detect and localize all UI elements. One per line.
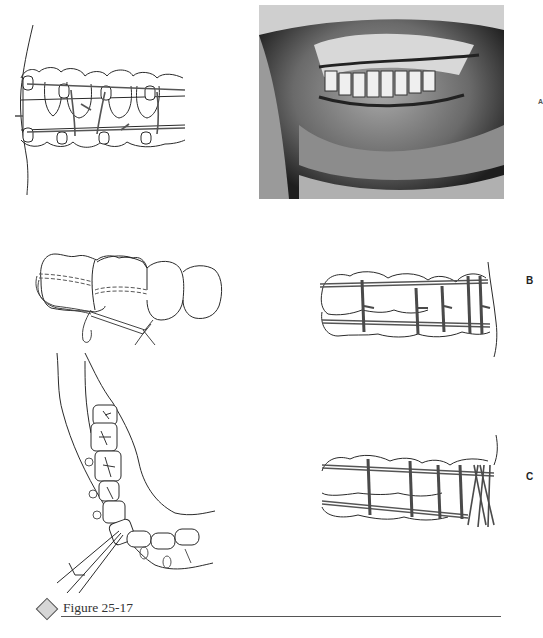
illustration-panel-c-wired-arch [318, 435, 503, 530]
panel-label-c: C [526, 471, 533, 482]
panel-label-b: B [526, 275, 533, 286]
figure-caption-header: Figure 25-17 [37, 599, 500, 621]
figure-caption-text-cropped [37, 629, 507, 638]
illustration-occlusal-wiring-with-pliers [55, 353, 235, 593]
caption-divider [61, 616, 501, 617]
illustration-molar-wire-loop [35, 250, 235, 355]
diamond-icon [36, 598, 59, 621]
figure-number: Figure 25-17 [63, 600, 133, 616]
illustration-wired-teeth-frontal [5, 20, 190, 195]
intraoral-photograph [259, 5, 504, 199]
illustration-panel-b-wired-arch [318, 262, 503, 357]
panel-label-a: A [538, 98, 543, 105]
